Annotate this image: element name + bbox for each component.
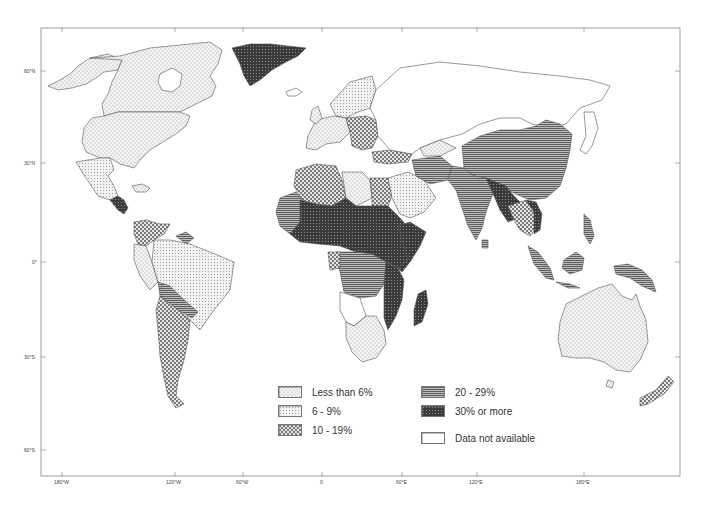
legend-label: 10 - 19% xyxy=(312,425,352,436)
region-sri-lanka xyxy=(482,240,488,248)
region-new-zealand xyxy=(640,376,674,406)
lat-tick-60n: 60°N xyxy=(24,68,35,74)
legend-item-6-to-9: 6 - 9% xyxy=(278,405,341,417)
legend-label: Less than 6% xyxy=(312,387,373,398)
legend-item-30-or-more: 30% or more xyxy=(421,405,512,417)
region-congo xyxy=(336,252,386,298)
region-sumatra xyxy=(528,246,554,280)
region-java xyxy=(556,282,580,288)
lon-tick-0: 0 xyxy=(320,479,323,485)
region-madagascar xyxy=(414,290,428,326)
region-tasmania xyxy=(606,380,614,388)
lon-tick-60e: 60°E xyxy=(396,479,407,485)
region-canada xyxy=(90,42,222,116)
region-gabon xyxy=(328,252,340,270)
region-caribbean xyxy=(132,184,150,192)
legend-label: 30% or more xyxy=(455,406,512,417)
lat-tick-30s: 30°S xyxy=(24,354,35,360)
lon-tick-180e: 180°E xyxy=(576,479,590,485)
region-eastern-europe xyxy=(346,116,378,150)
legend-label: Data not available xyxy=(455,433,535,444)
region-central-america xyxy=(110,196,128,214)
legend-item-data-not-available: Data not available xyxy=(421,432,535,444)
swatch-dark-crosshatch-icon xyxy=(421,405,445,417)
legend-label: 20 - 29% xyxy=(455,387,495,398)
lon-tick-120e: 120°E xyxy=(469,479,483,485)
region-kenya-tanzania xyxy=(384,262,404,330)
lon-tick-120w: 120°W xyxy=(166,479,181,485)
swatch-horizontal-lines-icon xyxy=(421,386,445,398)
swatch-blank-icon xyxy=(421,432,445,444)
region-philippines xyxy=(584,214,594,244)
region-greenland xyxy=(232,44,306,86)
map-legend: Less than 6% 6 - 9% 10 - 19% 20 - 29% 30… xyxy=(278,386,538,456)
region-borneo xyxy=(562,252,584,274)
region-new-guinea xyxy=(614,264,656,292)
region-scandinavia xyxy=(330,76,376,118)
swatch-coarse-dots-icon xyxy=(278,424,302,436)
region-iceland xyxy=(286,88,302,96)
swatch-fine-dots-icon xyxy=(278,386,302,398)
legend-item-20-to-29: 20 - 29% xyxy=(421,386,495,398)
legend-item-less-than-6: Less than 6% xyxy=(278,386,373,398)
lat-tick-60s: 60°S xyxy=(24,447,35,453)
region-japan xyxy=(580,112,598,154)
legend-label: 6 - 9% xyxy=(312,406,341,417)
swatch-grid-dots-icon xyxy=(278,405,302,417)
lon-tick-60w: 60°W xyxy=(236,479,248,485)
legend-item-10-to-19: 10 - 19% xyxy=(278,424,352,436)
lon-tick-180w: 180°W xyxy=(54,479,69,485)
region-australia xyxy=(558,284,648,372)
lat-tick-30n: 30°N xyxy=(24,160,35,166)
lat-tick-0: 0° xyxy=(32,259,37,265)
region-mexico xyxy=(76,158,118,200)
